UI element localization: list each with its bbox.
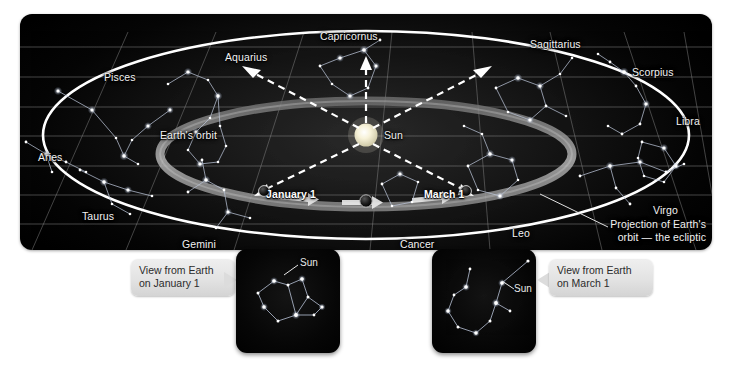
date-marker-march-1: March 1 [424,188,464,200]
constellation-label-sagittarius: Sagittarius [530,38,581,50]
sun-label: Sun [384,129,403,141]
sky-diagram-panel: Aries Pisces Aquarius Capricornus Sagitt… [20,14,712,250]
constellation-label-virgo: Virgo [653,204,678,216]
inset-sun-leader-january [284,265,298,275]
inset-sun-label-march: Sun [514,283,532,294]
sky-graphics [20,14,712,250]
constellation-label-aquarius: Aquarius [225,51,267,63]
callout-view-march-1: View from Earth on March 1 [549,259,653,296]
inset-march-graphics [432,249,536,353]
inset-view-january-1: Sun [236,249,340,353]
constellation-label-gemini: Gemini [182,238,216,250]
inset-view-march-1: Sun [432,249,536,353]
constellation-label-taurus: Taurus [82,210,114,222]
date-marker-january-1: January 1 [266,188,316,200]
constellation-label-scorpius: Scorpius [632,66,674,78]
constellation-label-libra: Libra [676,115,700,127]
callout-view-january-1: View from Earth on January 1 [131,259,235,296]
inset-january-graphics [236,249,340,353]
constellation-label-cancer: Cancer [400,238,434,250]
constellation-label-pisces: Pisces [104,71,136,83]
constellation-label-aries: Aries [38,151,62,163]
constellation-label-capricornus: Capricornus [320,30,378,42]
constellation-label-leo: Leo [512,227,530,239]
ecliptic-projection-label: Projection of Earth's orbit — the eclipt… [590,218,706,243]
earth-orbit-label: Earth's orbit [160,129,217,141]
figure-stage: Aries Pisces Aquarius Capricornus Sagitt… [0,0,730,369]
inset-sun-label-january: Sun [300,257,318,268]
